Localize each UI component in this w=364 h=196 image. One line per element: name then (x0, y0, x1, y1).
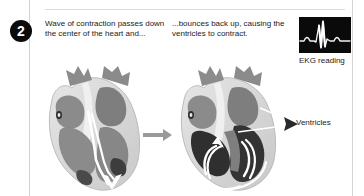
ekg-reading-label: EKG reading (299, 56, 355, 66)
caption-right: ...bounces back up, causing the ventricl… (172, 19, 290, 39)
right-margin-rule (352, 0, 353, 196)
caption-left: Wave of contraction passes down the cent… (45, 19, 167, 39)
figure-panel: 2 Wave of contraction passes down the ce… (0, 0, 364, 196)
ventricles-label: Ventricles (296, 118, 331, 128)
ventricles-leader-lines (232, 98, 302, 146)
heart-diagram-relaxed (42, 66, 150, 192)
flow-arrow-icon (143, 126, 173, 144)
top-divider-rule (45, 9, 345, 10)
ekg-waveform-panel (299, 17, 351, 53)
step-number-badge: 2 (10, 20, 32, 42)
